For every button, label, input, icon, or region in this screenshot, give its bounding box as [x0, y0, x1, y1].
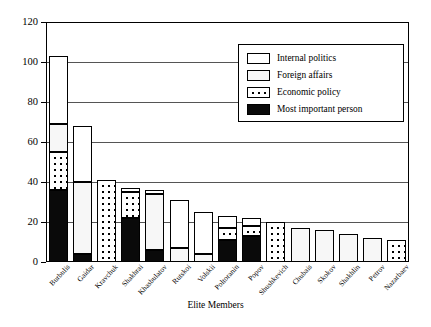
bar-segment — [145, 194, 164, 250]
legend-item-most-important-person: Most important person — [247, 101, 403, 118]
x-axis-tick-label: Skokov — [316, 263, 338, 285]
bar-segment — [73, 182, 92, 254]
chart-legend: Internal politics Foreign affairs Econom… — [238, 44, 404, 122]
bar-kravchuk[interactable] — [97, 180, 116, 262]
bar-shushkevich[interactable] — [266, 222, 285, 262]
bar-poltoranin[interactable] — [218, 216, 237, 262]
bar-segment — [170, 200, 189, 248]
legend-item-economic-policy: Economic policy — [247, 84, 403, 101]
bar-segment — [363, 238, 382, 262]
bar-khasbulatov[interactable] — [145, 190, 164, 262]
stacked-bar-chart: 020406080100120 BurbulisGaidarKravchukSh… — [0, 0, 431, 327]
bar-segment — [291, 228, 310, 262]
x-axis-tick-label: Kravchuk — [94, 263, 120, 290]
y-axis-tick-label: 120 — [4, 17, 38, 27]
bar-segment — [242, 236, 261, 262]
bar-segment — [242, 218, 261, 226]
legend-swatch-economic-policy — [247, 87, 270, 98]
bar-segment — [73, 126, 92, 182]
bar-shakhrai[interactable] — [121, 188, 140, 262]
bar-segment — [387, 240, 406, 262]
x-axis-tick-label: Chubais — [291, 263, 314, 287]
bar-segment — [194, 212, 213, 254]
bar-segment — [49, 124, 68, 152]
bar-gaidar[interactable] — [73, 126, 92, 262]
bar-rutskoi[interactable] — [170, 200, 189, 262]
bar-segment — [315, 230, 334, 262]
bar-chubais[interactable] — [291, 228, 310, 262]
bar-segment — [218, 240, 237, 262]
legend-label-most-important-person: Most important person — [277, 104, 362, 115]
bar-segment — [218, 216, 237, 228]
bar-segment — [49, 152, 68, 190]
y-axis-tick-label: 40 — [4, 177, 38, 187]
x-axis-tick-label: Petrov — [367, 263, 386, 283]
bar-segment — [242, 226, 261, 236]
y-axis-tick-label: 100 — [4, 57, 38, 67]
bar-segment — [121, 188, 140, 192]
bar-segment — [121, 192, 140, 218]
x-axis-title: Elite Members — [0, 300, 431, 310]
bar-segment — [266, 222, 285, 262]
y-axis-tick-label: 80 — [4, 97, 38, 107]
bar-segment — [97, 180, 116, 262]
bar-burbulis[interactable] — [49, 56, 68, 262]
x-axis-tick-label: Shakhlin — [338, 263, 362, 288]
bar-segment — [218, 228, 237, 240]
x-axis-tick-label: Rutskoi — [171, 263, 193, 286]
bar-segment — [194, 254, 213, 262]
y-axis-tick-label: 0 — [4, 257, 38, 267]
x-axis-tick-label: Volskii — [197, 263, 218, 284]
bar-popov[interactable] — [242, 218, 261, 262]
bar-petrov[interactable] — [363, 238, 382, 262]
bar-segment — [339, 234, 358, 262]
x-axis-tick-label: Poltoranin — [214, 263, 242, 292]
bar-segment — [145, 190, 164, 194]
legend-item-internal-politics: Internal politics — [247, 50, 403, 67]
x-axis-tick-label: Gaidar — [76, 263, 96, 284]
legend-swatch-most-important-person — [247, 104, 270, 115]
bar-segment — [49, 190, 68, 262]
legend-swatch-internal-politics — [247, 53, 270, 64]
legend-swatch-foreign-affairs — [247, 70, 270, 81]
bar-segment — [121, 218, 140, 262]
bar-segment — [49, 56, 68, 124]
legend-item-foreign-affairs: Foreign affairs — [247, 67, 403, 84]
bar-segment — [145, 250, 164, 262]
legend-label-foreign-affairs: Foreign affairs — [277, 70, 332, 81]
bar-shakhlin[interactable] — [339, 234, 358, 262]
y-axis-tick-label: 20 — [4, 217, 38, 227]
x-axis-tick-label: Popov — [246, 263, 265, 283]
legend-label-internal-politics: Internal politics — [277, 53, 336, 64]
legend-label-economic-policy: Economic policy — [277, 87, 341, 98]
bar-skokov[interactable] — [315, 230, 334, 262]
bar-volskii[interactable] — [194, 212, 213, 262]
x-axis-tick-label: Burbulis — [48, 263, 72, 288]
y-axis-tick-label: 60 — [4, 137, 38, 147]
bar-nazarbaev[interactable] — [387, 240, 406, 262]
bar-segment — [170, 248, 189, 262]
